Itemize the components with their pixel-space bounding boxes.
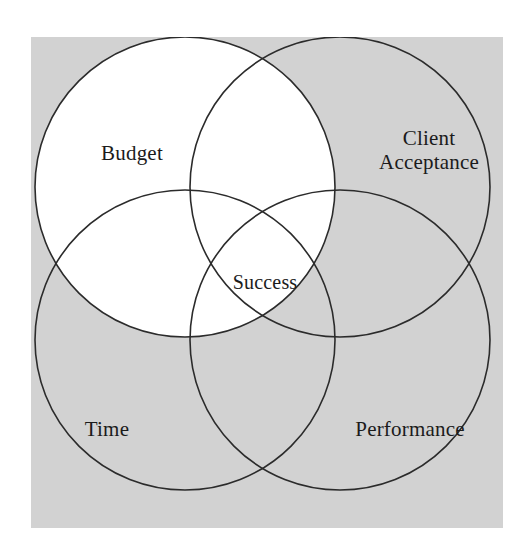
- budget-circle-fill: [35, 37, 335, 337]
- venn-diagram-canvas: [0, 0, 520, 554]
- venn-diagram-figure: Budget Client Acceptance Success Time Pe…: [0, 0, 520, 554]
